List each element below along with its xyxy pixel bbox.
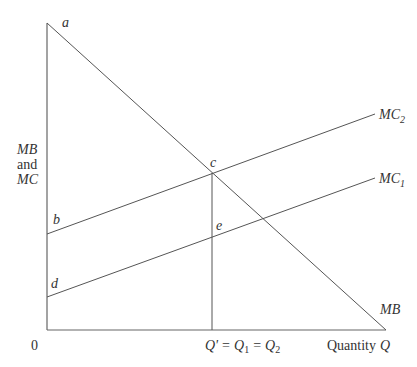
mb-curve [47, 23, 386, 330]
point-b-label: b [53, 212, 60, 227]
y-axis-label-mb: MB [16, 142, 38, 157]
mc2-label: MC2 [378, 107, 405, 125]
mc1-curve [47, 178, 375, 297]
y-axis-label-and: and [17, 157, 37, 172]
mc1-label: MC1 [378, 171, 405, 189]
mb-label: MB [379, 302, 401, 317]
mb-mc-diagram: a b c d e MC2 MC1 MB MB and MC 0 Q'=Q1=Q… [0, 0, 417, 367]
mc2-curve [47, 114, 375, 234]
origin-label: 0 [31, 338, 38, 353]
point-c-label: c [210, 155, 217, 170]
q-prime-equation-label: Q'=Q1=Q2 [205, 338, 280, 355]
diagram-canvas: a b c d e MC2 MC1 MB MB and MC 0 Q'=Q1=Q… [0, 0, 417, 367]
point-d-label: d [51, 276, 59, 291]
x-axis-label: QuantityQ [327, 338, 390, 353]
y-axis-label-mc: MC [16, 172, 39, 187]
point-a-label: a [62, 15, 69, 30]
point-e-label: e [216, 218, 222, 233]
